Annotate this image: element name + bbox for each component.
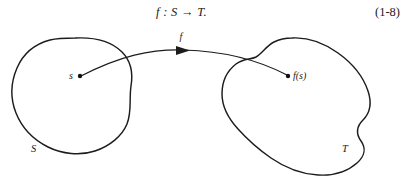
mapping-arrow-label: f [180,31,184,42]
codomain-set-label: T [342,143,349,154]
domain-set-label: S [31,143,37,154]
set-mapping-diagram: s f(s) f S T [0,0,408,182]
codomain-element-label: f(s) [293,70,307,82]
domain-set-blob [12,38,132,154]
mapping-arrowhead [176,46,190,55]
mapping-arrow-curve [81,50,287,76]
domain-element-label: s [69,70,73,81]
codomain-element-dot [286,74,290,78]
function-mapping-figure: f : S → T. (1-8) s f(s) f S T [0,0,408,182]
domain-element-dot [78,74,82,78]
